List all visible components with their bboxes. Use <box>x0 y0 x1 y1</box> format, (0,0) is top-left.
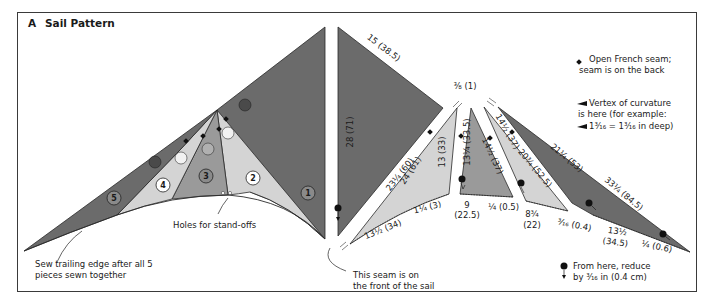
diamond-icon <box>427 129 433 135</box>
vertex-pointer-icon <box>577 101 587 106</box>
piece3-bottom-edge-line2: (22.5) <box>454 210 480 220</box>
vertex-pointer-icon <box>577 124 587 129</box>
piece4-bottom-edge-line1: 8¾ <box>525 209 539 219</box>
legend-vertex-line3: 1³⁄₁₆ = 1³⁄₁₆ in deep) <box>589 121 673 131</box>
patch-circle <box>202 143 214 155</box>
svg-text:2: 2 <box>250 174 256 183</box>
piece3-left-edge: 13¼ (33.5) <box>462 118 472 165</box>
patch-circle <box>175 152 187 164</box>
legend-french-seam-line1: Open French seam; <box>589 54 671 64</box>
piece-badge-1: 1 <box>301 186 315 200</box>
piece-badge-2: 2 <box>246 171 260 185</box>
patch-circle <box>149 156 161 168</box>
legend-vertex-line2: is here (for example: <box>578 109 667 119</box>
piece4-depth: ³⁄₁₆ (0.4) <box>557 216 593 233</box>
piece-badge-3: 3 <box>199 169 213 183</box>
legend-vertex-line1: Vertex of curvature <box>589 98 671 108</box>
svg-text:5: 5 <box>111 194 117 203</box>
patch-circle <box>239 99 251 111</box>
legend-reduce-line1: From here, reduce <box>573 261 651 271</box>
holes-label: Holes for stand-offs <box>173 220 257 230</box>
svg-text:3: 3 <box>203 172 209 181</box>
svg-text:4: 4 <box>160 181 166 190</box>
seam-note-line2: the front of the sail <box>353 281 434 291</box>
seam-callout-arrow <box>328 248 346 271</box>
piece2-right-edge: 13 (33) <box>437 137 447 168</box>
piece3-bottom-edge-line1: 9 <box>464 200 469 210</box>
sail-pattern-diagram: A Sail Pattern 1 <box>0 0 716 306</box>
reduce-marker-icon <box>561 263 568 280</box>
piece-badge-4: 4 <box>156 178 170 192</box>
figure-title: Sail Pattern <box>45 17 115 29</box>
piece5-bottom-edge-line2: (34.5) <box>602 235 629 248</box>
stand-off-hole <box>221 191 224 194</box>
stand-off-hole <box>228 191 231 194</box>
gap-label: ⅜ (1) <box>454 81 477 91</box>
holes-callout-arrow <box>218 198 228 214</box>
legend-french-seam-line2: seam is on the back <box>579 65 665 75</box>
diamond-icon <box>576 59 582 65</box>
legend-reduce-line2: by ³⁄₁₆ in (0.4 cm) <box>573 272 647 282</box>
trailing-edge-note-line1: Sew trailing edge after all 5 <box>35 259 153 269</box>
seam-note-line1: This seam is on <box>352 270 419 280</box>
piece1-long-edge: 28 (71) <box>345 117 355 148</box>
piece4-bottom-edge-line2: (22) <box>523 220 540 230</box>
panel-letter: A <box>28 17 37 29</box>
svg-text:1: 1 <box>305 189 311 198</box>
trailing-edge-note-line2: pieces sewn together <box>35 270 127 280</box>
piece3-depth: ¼ (0.5) <box>488 202 519 212</box>
patch-circle <box>222 127 234 139</box>
piece-badge-5: 5 <box>107 191 121 205</box>
